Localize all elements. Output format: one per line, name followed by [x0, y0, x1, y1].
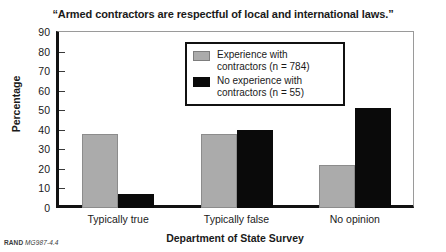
y-tick-label: 30 [10, 144, 50, 154]
y-tick-label: 40 [10, 125, 50, 135]
y-tick-label: 20 [10, 164, 50, 174]
legend-label-no-experience: No experience with contractors (n = 55) [217, 75, 304, 98]
y-tick-label: 70 [10, 66, 50, 76]
y-tick-label: 0 [10, 203, 50, 213]
footer-code: MG987-4.4 [25, 239, 58, 246]
x-axis-title: Department of State Survey [56, 232, 414, 244]
legend-item-no-experience: No experience with contractors (n = 55) [193, 75, 337, 98]
legend-swatch-black [193, 77, 210, 87]
bar [319, 165, 355, 208]
bar [201, 134, 237, 208]
footer-note: RAND MG987-4.4 [4, 239, 59, 246]
y-tick-label: 90 [10, 27, 50, 37]
bar [82, 134, 118, 208]
bar [118, 194, 154, 208]
legend-item-experience: Experience with contractors (n = 784) [193, 49, 337, 72]
legend-label-experience: Experience with contractors (n = 784) [217, 49, 310, 72]
chart-legend: Experience with contractors (n = 784) No… [185, 42, 345, 106]
y-tick-label: 80 [10, 47, 50, 57]
legend-swatch-gray [193, 51, 210, 61]
x-tick-label: No opinion [285, 213, 425, 225]
bar [237, 130, 273, 208]
footer-brand: RAND [4, 239, 23, 246]
chart-title: “Armed contractors are respectful of loc… [0, 8, 446, 20]
y-tick-label: 10 [10, 183, 50, 193]
y-tick-label: 60 [10, 86, 50, 96]
y-tick-label: 50 [10, 105, 50, 115]
bar [355, 108, 391, 208]
